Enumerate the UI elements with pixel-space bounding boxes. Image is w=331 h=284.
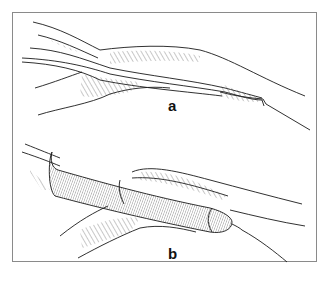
panel-label-a: a: [168, 98, 176, 113]
illustration: [0, 0, 331, 284]
panel-b-drawing: [22, 144, 305, 262]
panel-label-b: b: [168, 246, 177, 261]
panel-a-drawing: [22, 22, 310, 130]
